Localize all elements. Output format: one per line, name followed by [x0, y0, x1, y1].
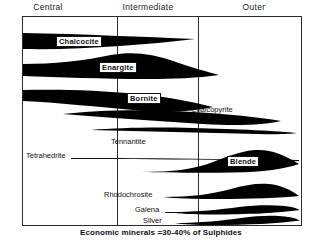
lens-silver: [175, 216, 300, 225]
leader-line-galena: [165, 212, 177, 213]
zone-label-intermediate: Intermediate: [100, 2, 196, 12]
zone-label-outer: Outer: [206, 2, 302, 12]
mineral-label-chalcopyrite: Chalcopyrite: [191, 105, 233, 114]
mineral-label-rhodochrosite: Rhodochrosite: [104, 190, 152, 199]
plot-frame: Chalcocite Enargite Bornite Chalcopyrite…: [22, 16, 302, 226]
mineral-label-bornite: Bornite: [127, 93, 161, 104]
lens-tennantite: [91, 128, 297, 135]
mineral-zoning-figure: Central Intermediate Outer: [0, 0, 322, 243]
mineral-label-chalcocite: Chalcocite: [56, 36, 102, 47]
mineral-label-blende: Blende: [227, 156, 259, 167]
lens-bornite: [23, 90, 213, 112]
mineral-label-enargite: Enargite: [99, 62, 137, 73]
figure-caption: Economic minerals =30-40% of Sulphides: [0, 228, 322, 237]
leader-line-tetrahedrite: [71, 158, 115, 159]
lens-blende: [141, 150, 299, 173]
lens-chalcopyrite: [63, 110, 281, 125]
mineral-label-galena: Galena: [135, 205, 159, 214]
mineral-label-tennantite: Tennantite: [111, 137, 146, 146]
zone-label-central: Central: [0, 2, 96, 12]
mineral-lens-shapes: [23, 17, 301, 225]
mineral-label-silver: Silver: [143, 216, 162, 225]
mineral-label-tetrahedrite: Tetrahedrite: [26, 151, 66, 160]
lens-rhodochrosite: [163, 184, 299, 199]
lens-chalcocite: [23, 33, 195, 49]
lens-galena: [171, 205, 300, 214]
